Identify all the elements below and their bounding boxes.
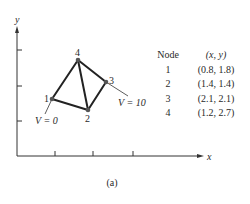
x-axis: x	[17, 151, 212, 162]
cell-node: 1	[150, 63, 186, 78]
cell-coordinates: (0.8, 1.8)	[186, 63, 246, 78]
boundary-label-node-3: V = 10	[118, 97, 146, 108]
node-3-marker	[104, 80, 109, 85]
edge-1-4	[52, 60, 78, 99]
node-2-label: 2	[85, 113, 90, 124]
mesh-edges	[52, 60, 106, 110]
figure-caption: (a)	[100, 177, 124, 188]
boundary-label-node-1: V = 0	[35, 115, 58, 126]
x-axis-label: x	[206, 151, 212, 162]
cell-coordinates: (2.1, 2.1)	[186, 92, 246, 107]
header-node: Node	[150, 48, 186, 63]
node-4-label: 4	[75, 47, 80, 58]
cell-node: 3	[150, 92, 186, 107]
y-axis-arrow-icon	[15, 26, 19, 33]
y-axis: y	[14, 14, 22, 156]
node-2-marker	[86, 108, 91, 113]
x-axis-arrow-icon	[197, 154, 204, 158]
table-row: 4 (1.2, 2.7)	[150, 106, 250, 121]
node-1-label: 1	[44, 93, 49, 104]
table-row: 2 (1.4, 1.4)	[150, 77, 250, 92]
y-axis-label: y	[14, 14, 20, 25]
cell-node: 4	[150, 106, 186, 121]
node-3-label: 3	[109, 75, 114, 86]
table-header-row: Node (x, y)	[150, 48, 250, 63]
table-row: 1 (0.8, 1.8)	[150, 63, 250, 78]
edge-1-2	[52, 99, 88, 110]
cell-coordinates: (1.4, 1.4)	[186, 77, 246, 92]
table-row: 3 (2.1, 2.1)	[150, 92, 250, 107]
cell-node: 2	[150, 77, 186, 92]
node-coordinates-table: Node (x, y) 1 (0.8, 1.8) 2 (1.4, 1.4) 3 …	[150, 48, 250, 121]
cell-coordinates: (1.2, 2.7)	[186, 106, 246, 121]
finite-element-mesh-figure: y x 1 2 3	[0, 0, 250, 204]
node-4-marker	[76, 58, 81, 63]
edge-2-3	[88, 82, 106, 110]
node-1-marker	[50, 97, 55, 102]
header-coordinates: (x, y)	[186, 48, 246, 63]
